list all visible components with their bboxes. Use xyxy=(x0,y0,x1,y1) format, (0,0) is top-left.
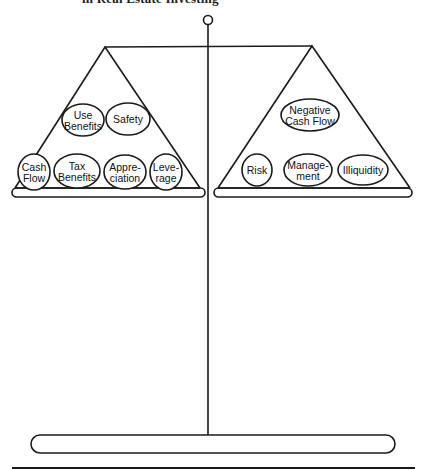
right-pan xyxy=(214,188,412,197)
item-label: Illiquidity xyxy=(343,164,384,176)
item-label: Benefits xyxy=(58,171,96,183)
item-label: rage xyxy=(155,172,176,184)
item-label: Risk xyxy=(247,164,268,176)
scale-beam xyxy=(105,46,312,47)
balance-scale-diagram: UseBenefitsSafetyCashFlowTaxBenefitsAppr… xyxy=(0,0,421,470)
left-pan xyxy=(12,188,205,197)
scale-base xyxy=(31,435,395,453)
scale-top-ring xyxy=(204,16,213,25)
benefit-item: TaxBenefits xyxy=(54,154,100,188)
benefit-item: UseBenefits xyxy=(62,104,104,136)
item-label: Safety xyxy=(113,113,144,125)
left-pan-items: UseBenefitsSafetyCashFlowTaxBenefitsAppr… xyxy=(18,103,182,190)
item-label: ciation xyxy=(110,172,141,184)
benefit-item: Leve-rage xyxy=(150,154,182,190)
drawback-item: Illiquidity xyxy=(338,155,388,185)
drawback-item: Risk xyxy=(242,154,272,186)
item-label: Cash Flow xyxy=(285,115,335,127)
benefit-item: Appre-ciation xyxy=(104,155,146,189)
benefit-item: Safety xyxy=(106,103,150,135)
benefit-item: CashFlow xyxy=(18,154,50,190)
drawback-item: NegativeCash Flow xyxy=(281,99,339,131)
item-label: Flow xyxy=(23,172,46,184)
drawback-item: Manage-ment xyxy=(284,154,332,186)
item-label: ment xyxy=(296,170,319,182)
right-pan-items: NegativeCash FlowRiskManage-mentIlliquid… xyxy=(242,99,388,186)
item-label: Benefits xyxy=(64,120,102,132)
